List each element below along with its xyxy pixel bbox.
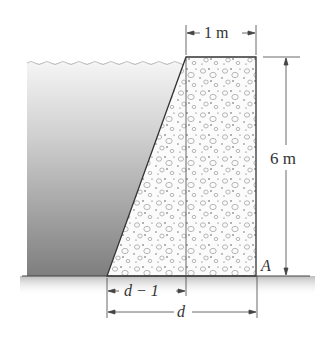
label-height: 6 m [270,150,296,167]
label-top-width: 1 m [204,25,228,41]
label-point-a: A [261,258,271,274]
dam-diagram [0,0,328,340]
label-base-total: d [177,304,185,320]
label-base-sloped: d − 1 [124,283,159,299]
ground-shadow [20,276,315,296]
